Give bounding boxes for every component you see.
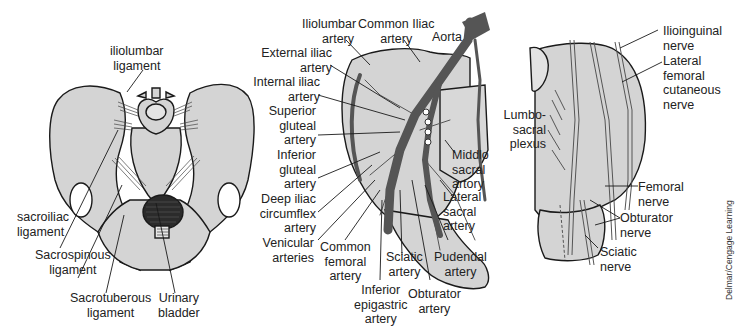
- label-aorta: Aorta: [432, 30, 462, 45]
- label-sacrospinous-ligament: Sacrospinous ligament: [35, 248, 111, 277]
- label-lateral-sacral-artery: Lateral sacral artery: [443, 190, 481, 234]
- label-iliolumbar-ligament: iliolumbar ligament: [110, 44, 164, 73]
- label-venicular-arteries: Venicular arteries: [250, 236, 314, 265]
- label-obturator-nerve: Obturator nerve: [620, 211, 673, 240]
- label-common-iliac-artery: Common Iliac artery: [358, 17, 434, 46]
- label-common-femoral-artery: Common femoral artery: [320, 240, 371, 284]
- label-deep-iliac-circumflex-artery: Deep iliac circumflex artery: [250, 192, 316, 236]
- label-inferior-gluteal-artery: Inferior gluteal artery: [250, 148, 316, 192]
- label-inferior-epigastric-artery: Inferior epigastric artery: [354, 283, 408, 327]
- label-sciatic-nerve: Sciatic nerve: [600, 245, 637, 274]
- label-urinary-bladder: Urinary bladder: [158, 291, 200, 320]
- label-lumbosacral-plexus: Lumbo- sacral plexus: [492, 108, 546, 152]
- credit-line: Delmar/Cengage Learning: [724, 200, 734, 300]
- label-sacroiliac-ligament: sacroiliac ligament: [17, 210, 69, 239]
- label-femoral-nerve: Femoral nerve: [638, 180, 684, 209]
- label-ilioinguinal-nerve: Ilioinguinal nerve: [663, 24, 722, 53]
- label-internal-iliac-artery: Internal iliac artery: [250, 75, 320, 104]
- label-external-iliac-artery: External iliac artery: [250, 46, 332, 75]
- label-sciatic-artery: Sciatic artery: [386, 250, 423, 279]
- pelvis-ligaments-figure: [50, 84, 254, 270]
- label-pudendal-artery: Pudendal artery: [434, 250, 487, 279]
- label-iliolumbar-artery: Iliolumbar artery: [302, 17, 354, 46]
- label-sacrotuberous-ligament: Sacrotuberous ligament: [70, 291, 151, 320]
- label-middle-sacral-artery: Middlo sacral artory: [452, 148, 489, 192]
- label-superior-gluteal-artery: Superior gluteal artery: [250, 104, 316, 148]
- label-lateral-femoral-cutaneous-nerve: Lateral femoral cutaneous nerve: [663, 54, 721, 112]
- label-obturator-artery: Obturator artery: [408, 287, 461, 316]
